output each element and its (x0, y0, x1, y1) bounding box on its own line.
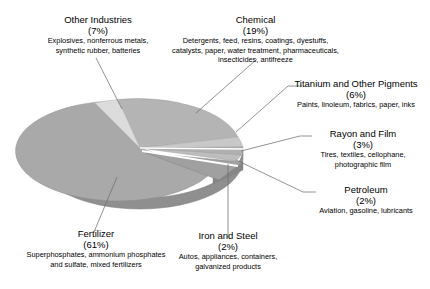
label-chemical-desc-3: insecticides, antifreeze (131, 55, 380, 64)
label-fertilizer-title: Fertilizer (4, 228, 188, 239)
label-fertilizer-desc-1: Superphosphates, ammonium phosphates (4, 250, 188, 259)
label-petroleum-desc-1: Aviation, gasoline, lubricants (304, 206, 428, 215)
leader-rayon (241, 136, 300, 151)
label-chemical: Chemical (19%) Detergents, feed, resins,… (131, 14, 380, 65)
leader-chemical (196, 59, 257, 113)
label-fertilizer-desc-2: and sulfate, mixed fertilizers (4, 260, 188, 269)
label-fertilizer-pct: (61%) (4, 239, 188, 250)
label-chemical-title: Chemical (131, 14, 380, 25)
label-chemical-desc-1: Detergents, feed, resins, coatings, dyes… (131, 36, 380, 45)
leader-petroleum (236, 160, 303, 192)
label-chemical-desc-2: catalysts, paper, water treatment, pharm… (131, 46, 380, 55)
label-rayon-desc-1: Tires, textiles, cellophane, (300, 150, 426, 159)
label-rayon-pct: (3%) (300, 139, 426, 150)
label-rayon: Rayon and Film (3%) Tires, textiles, cel… (300, 128, 426, 169)
label-rayon-desc-2: photographic film (300, 160, 426, 169)
pie-chart-figure: Other Industries (7%) Explosives, nonfer… (0, 0, 430, 289)
label-petroleum-pct: (2%) (304, 195, 428, 206)
label-fertilizer: Fertilizer (61%) Superphosphates, ammoni… (4, 228, 188, 269)
leader-titanium (236, 86, 288, 132)
label-petroleum-title: Petroleum (304, 184, 428, 195)
label-petroleum: Petroleum (2%) Aviation, gasoline, lubri… (304, 184, 428, 216)
label-rayon-title: Rayon and Film (300, 128, 426, 139)
label-titanium-title: Titanium and Other Pigments (282, 78, 430, 89)
label-titanium: Titanium and Other Pigments (6%) Paints,… (282, 78, 430, 110)
label-titanium-desc-1: Paints, linoleum, fabrics, paper, inks (282, 100, 430, 109)
label-titanium-pct: (6%) (282, 89, 430, 100)
label-chemical-pct: (19%) (131, 25, 380, 36)
